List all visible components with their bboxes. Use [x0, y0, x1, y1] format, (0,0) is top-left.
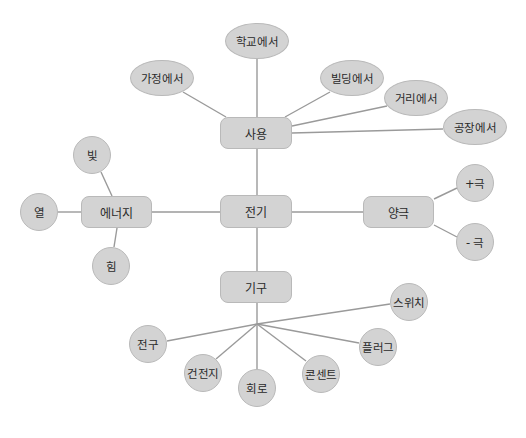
leaf-label: 힘 [106, 258, 117, 274]
edge-usage-home [183, 92, 226, 117]
branch-label-devices: 기구 [245, 279, 266, 296]
edge-hub-outlet [257, 324, 306, 361]
leaf-node-at-home: 가정에서 [130, 60, 194, 96]
leaf-label: 가정에서 [141, 70, 184, 86]
leaf-node-outlet: 콘센트 [302, 355, 340, 393]
edge-hub-plug [257, 324, 359, 343]
leaf-node-minus-pole: - 극 [456, 223, 494, 261]
branch-node-devices: 기구 [220, 271, 292, 303]
edge-energy-force [114, 228, 117, 247]
edge-poles-plus [434, 188, 457, 199]
branch-label-energy: 에너지 [100, 204, 132, 221]
leaf-label: 전구 [137, 336, 158, 352]
leaf-label: - 극 [466, 234, 484, 250]
edge-poles-minus [434, 225, 457, 237]
leaf-label: 스위치 [393, 294, 425, 310]
edge-hub-switch [257, 304, 390, 324]
leaf-node-light: 빛 [73, 136, 111, 174]
edge-usage-factory [292, 129, 443, 133]
edge-energy-light [101, 172, 112, 196]
leaf-label: 공장에서 [454, 119, 497, 135]
leaf-label: 빌딩에서 [331, 70, 374, 86]
leaf-node-on-street: 거리에서 [384, 80, 448, 116]
branch-node-usage: 사용 [220, 117, 292, 149]
leaf-label: 회로 [246, 380, 267, 396]
branch-node-poles: 양극 [363, 196, 434, 228]
branch-label-usage: 사용 [245, 125, 266, 142]
leaf-node-battery: 건전지 [184, 354, 222, 392]
leaf-node-plug: 플러그 [359, 328, 397, 366]
leaf-node-at-school: 학교에서 [225, 23, 289, 59]
leaf-label: 건전지 [187, 365, 219, 381]
edge-usage-building [285, 92, 330, 117]
leaf-node-plus-pole: +극 [456, 164, 494, 202]
leaf-label: 학교에서 [236, 33, 279, 49]
leaf-node-at-factory: 공장에서 [443, 109, 507, 145]
leaf-label: 콘센트 [305, 366, 337, 382]
branch-node-energy: 에너지 [81, 196, 152, 228]
leaf-node-circuit: 회로 [238, 369, 276, 407]
edge-hub-battery [216, 324, 257, 359]
center-node-electricity: 전기 [220, 195, 292, 228]
branch-label-poles: 양극 [388, 204, 409, 221]
edge-hub-bulb [167, 324, 257, 341]
leaf-node-at-building: 빌딩에서 [320, 60, 384, 96]
leaf-node-force: 힘 [92, 247, 130, 285]
leaf-label: 열 [34, 204, 45, 220]
leaf-label: +극 [465, 175, 485, 191]
leaf-label: 플러그 [362, 339, 394, 355]
edge-usage-street [292, 106, 387, 126]
leaf-node-heat: 열 [20, 193, 58, 231]
leaf-node-bulb: 전구 [129, 325, 167, 363]
leaf-label: 거리에서 [395, 90, 438, 106]
center-node-label: 전기 [245, 203, 266, 220]
leaf-label: 빛 [87, 147, 98, 163]
leaf-node-switch: 스위치 [390, 283, 428, 321]
